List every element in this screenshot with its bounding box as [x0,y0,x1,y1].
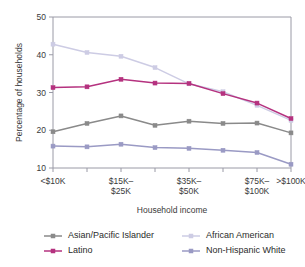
legend-label: African American [206,230,274,240]
data-point [255,101,259,105]
data-point [85,121,89,125]
x-tick-label: $50K [179,186,199,196]
data-point [119,114,123,118]
legend-item[interactable]: Asian/Pacific Islander [44,230,154,240]
data-point [51,86,55,90]
data-point [119,54,123,58]
chart-legend: Asian/Pacific IslanderAfrican AmericanLa… [44,230,286,255]
y-tick-label: 10 [37,163,47,173]
series-line [53,44,291,120]
legend-swatch-marker [51,249,55,253]
x-tick-label: $25K [111,186,131,196]
data-point [187,81,191,85]
data-point [255,151,259,155]
data-point [85,145,89,149]
data-point [85,85,89,89]
series-non-hispanic-white [51,142,293,166]
y-tick-label: 40 [37,50,47,60]
data-point [153,66,157,70]
legend-swatch-marker [189,249,193,253]
data-point [221,121,225,125]
chart-container: 1020304050<$10K$15K–$25K$35K–$50K$75K–$1… [0,0,305,267]
data-point [221,148,225,152]
data-point [187,119,191,123]
data-point [289,117,293,121]
data-point [187,146,191,150]
data-point [289,162,293,166]
x-tick-label: $15K– [109,176,134,186]
x-tick-label: $35K– [177,176,202,186]
legend-item[interactable]: Latino [44,245,93,255]
data-point [119,77,123,81]
legend-swatch-marker [51,234,55,238]
data-point [119,142,123,146]
data-point [51,144,55,148]
x-axis-title: Household income [137,205,208,215]
chart-series [51,42,293,166]
x-tick-label: >$100K [276,176,305,186]
legend-item[interactable]: Non-Hispanic White [182,245,286,255]
legend-label: Latino [68,245,93,255]
series-latino [51,77,293,120]
x-tick-label: <$10K [41,176,66,186]
y-tick-label: 50 [37,12,47,22]
x-tick-label: $75K– [245,176,270,186]
data-point [51,42,55,46]
data-point [85,50,89,54]
data-point [221,92,225,96]
series-african-american [51,42,293,122]
y-tick-label: 20 [37,125,47,135]
x-tick-label: $100K [245,186,270,196]
chart-labels: 1020304050<$10K$15K–$25K$35K–$50K$75K–$1… [14,12,305,215]
data-point [289,131,293,135]
legend-label: Non-Hispanic White [206,245,286,255]
line-chart: 1020304050<$10K$15K–$25K$35K–$50K$75K–$1… [0,0,305,267]
data-point [255,121,259,125]
series-asian-pacific-islander [51,114,293,135]
legend-swatch-marker [189,234,193,238]
data-point [51,130,55,134]
data-point [153,81,157,85]
y-tick-label: 30 [37,88,47,98]
y-axis-title: Percentage of households [14,43,24,142]
legend-label: Asian/Pacific Islander [68,230,154,240]
data-point [153,123,157,127]
data-point [153,146,157,150]
legend-item[interactable]: African American [182,230,274,240]
